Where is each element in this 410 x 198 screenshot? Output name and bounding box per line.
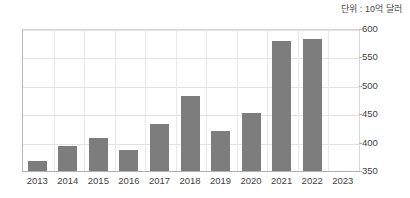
bars-layer <box>22 29 359 171</box>
x-tick-label: 2019 <box>210 175 231 187</box>
bar[interactable] <box>89 138 108 171</box>
x-tick-label: 2014 <box>57 175 78 187</box>
bar[interactable] <box>211 131 230 171</box>
x-tick-label: 2015 <box>88 175 109 187</box>
x-tick-label: 2023 <box>332 175 353 187</box>
y-tick-label: 550 <box>362 52 378 62</box>
x-tick-label: 2013 <box>27 175 48 187</box>
bar[interactable] <box>181 96 200 171</box>
bar[interactable] <box>272 41 291 171</box>
x-tick-label: 2020 <box>241 175 262 187</box>
unit-note-label: 단위 : 10억 달러 <box>341 3 402 15</box>
bar[interactable] <box>119 150 138 171</box>
x-axis-line <box>22 171 359 172</box>
y-tick-label: 400 <box>362 138 378 148</box>
bar-chart: 단위 : 10억 달러 350400450500550600 201320142… <box>0 0 410 198</box>
y-tick-label: 500 <box>362 81 378 91</box>
x-axis-ticks: 2013201420152016201720182019202020212022… <box>22 173 359 191</box>
y-tick-label: 600 <box>362 24 378 34</box>
bar[interactable] <box>303 39 322 171</box>
x-tick-label: 2016 <box>118 175 139 187</box>
bar[interactable] <box>28 161 47 171</box>
y-tick-label: 450 <box>362 109 378 119</box>
bar[interactable] <box>242 113 261 171</box>
y-tick-label: 350 <box>362 166 378 176</box>
x-tick-label: 2021 <box>271 175 292 187</box>
bar[interactable] <box>58 146 77 171</box>
x-tick-label: 2022 <box>302 175 323 187</box>
x-tick-label: 2017 <box>149 175 170 187</box>
x-tick-label: 2018 <box>179 175 200 187</box>
bar[interactable] <box>150 124 169 171</box>
